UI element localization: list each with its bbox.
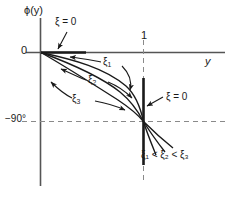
x-axis-label: y (205, 56, 211, 67)
annotation-curve-xi-2: ξ2 (88, 75, 96, 85)
leader-arrow-xi-3-left (51, 82, 72, 98)
annotation-ordering: ξ₁ < ξ₂ < ξ₃ (141, 150, 189, 160)
x-tick-label-one: 1 (141, 30, 147, 41)
annotation-curve-xi-3: ξ3 (72, 94, 80, 104)
annotation-curve-xi-1: ξ1 (103, 57, 111, 67)
leader-arrow-xi-2-left (61, 69, 86, 80)
annotation-xi-zero-top: ξ = 0 (55, 17, 76, 27)
y-tick-label-minus-90: −90° (5, 114, 26, 124)
leader-arrow-xi-zero-top (58, 32, 67, 49)
y-axis-label: ϕ(y) (24, 5, 43, 16)
annotation-curve-xi-3-index: 3 (76, 98, 80, 105)
annotation-xi-zero-mid: ξ = 0 (166, 92, 187, 102)
origin-tick-label: 0 (21, 45, 27, 56)
plot-canvas (0, 0, 251, 199)
annotation-curve-xi-2-index: 2 (92, 79, 96, 86)
curve-xi-1 (41, 53, 156, 156)
annotation-curve-xi-1-index: 1 (107, 61, 111, 68)
leader-arrow-xi-zero-mid (147, 97, 163, 106)
phase-angle-plot: ϕ(y) 0 1 y −90° ξ = 0 ξ = 0 ξ1 ξ2 ξ3 ξ₁ … (0, 0, 251, 199)
